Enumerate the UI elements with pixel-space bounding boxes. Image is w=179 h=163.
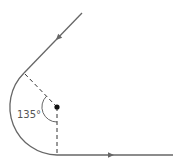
outgoing-arrow-icon [108, 152, 114, 158]
deflection-diagram: 135° [0, 0, 179, 163]
radius-upper-dashed [24, 73, 57, 107]
angle-arc [42, 96, 57, 122]
angle-label: 135° [17, 110, 41, 120]
center-dot [54, 104, 59, 109]
diagram-canvas [0, 0, 179, 163]
incoming-line [24, 13, 82, 73]
